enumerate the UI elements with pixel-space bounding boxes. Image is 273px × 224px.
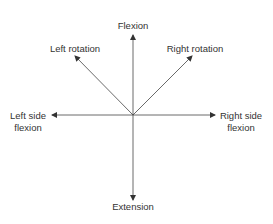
left-side-flexion-label: Left side flexion — [8, 110, 48, 134]
movement-diagram: Flexion Left rotation Right rotation Lef… — [0, 0, 273, 224]
right-side-flexion-label: Right side flexion — [216, 110, 266, 134]
extension-label: Extension — [108, 201, 158, 213]
right-side-flexion-line2: flexion — [216, 122, 266, 134]
left-side-flexion-line1: Left side — [8, 110, 48, 122]
left-rotation-label: Left rotation — [45, 43, 105, 55]
left-side-flexion-line2: flexion — [8, 122, 48, 134]
right-side-flexion-line1: Right side — [216, 110, 266, 122]
right-rotation-label: Right rotation — [160, 43, 230, 55]
flexion-label: Flexion — [113, 20, 153, 32]
right-rotation-arrow — [133, 56, 192, 115]
left-rotation-arrow — [75, 56, 133, 115]
